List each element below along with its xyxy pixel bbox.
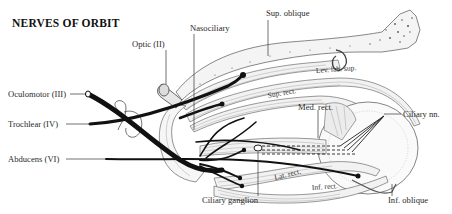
nasociliary-nerve-end <box>220 102 225 107</box>
label-optic: Optic (II) <box>132 39 165 49</box>
orbit-nerves-diagram: NERVES OF ORBIT <box>0 0 452 214</box>
label-abducens: Abducens (VI) <box>8 154 59 164</box>
label-inf-rect: Inf. rect. <box>312 181 339 192</box>
ciliary-ganglion <box>254 145 262 151</box>
label-ciliary-ganglion: Ciliary ganglion <box>202 195 259 205</box>
trochlear-nerve-end <box>240 72 246 78</box>
label-oculomotor: Oculomotor (III) <box>8 89 66 99</box>
label-ciliary-nn: Ciliary nn. <box>403 109 440 119</box>
label-lat-rect: Lat. rect. <box>273 167 302 182</box>
label-trochlear: Trochlear (IV) <box>8 119 58 129</box>
label-nasociliary: Nasociliary <box>190 23 230 33</box>
label-sup-oblique: Sup. oblique <box>266 8 310 18</box>
label-lev-lab-sup: Lev. lab. sup. <box>316 63 357 75</box>
abducens-nerve-end <box>356 174 361 179</box>
label-med-rect: Med. rect. <box>298 102 333 112</box>
diagram-title: NERVES OF ORBIT <box>12 17 120 29</box>
label-inf-oblique: Inf. oblique <box>388 195 428 205</box>
oculomotor-nerve-cut-end <box>86 91 91 97</box>
